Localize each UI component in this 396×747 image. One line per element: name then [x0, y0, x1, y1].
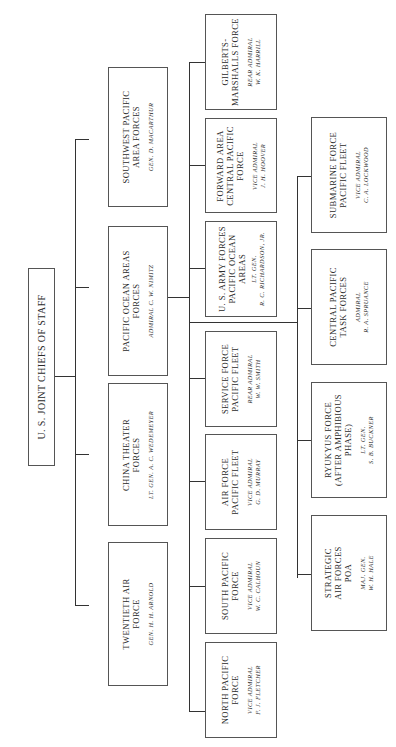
node-title-line: U. S. ARMY FORCES — [217, 226, 227, 312]
node-title-line: SOUTHWEST PACIFIC — [121, 91, 131, 184]
node-commander: W. K. HARRILL — [254, 18, 262, 106]
node-title-line: TWENTIETH AIR — [121, 578, 131, 649]
node-central-pacific-task-forces: CENTRAL PACIFIC TASK FORCES ADMIRAL R. A… — [311, 249, 387, 365]
node-title-line: PHASE) — [344, 394, 354, 486]
node-service-force-pacific-fleet: SERVICE FORCE PACIFIC FLEET REAR ADMIRAL… — [205, 331, 277, 427]
node-title-line: FORCE — [131, 578, 141, 649]
node-commander: ADMIRAL C. W. NIMITZ — [147, 250, 155, 351]
node-commander: LT. GEN. — [360, 394, 368, 486]
node-title-line: PACIFIC OCEAN AREAS — [121, 250, 131, 351]
node-commander: REAR ADMIRAL — [247, 18, 255, 106]
node-commander: R. C. RICHARDSON, JR. — [258, 226, 266, 312]
node-title-line: PACIFIC FLEET — [338, 132, 348, 218]
connector — [189, 165, 205, 166]
node-commander: REAR ADMIRAL — [247, 344, 255, 414]
node-title-line: FORCES — [131, 410, 141, 498]
connector — [75, 287, 89, 288]
node-title-line: CENTRAL PACIFIC — [328, 267, 338, 347]
node-commander: J. H. HOOVER — [259, 126, 267, 206]
node-commander: MAJ. GEN. — [360, 546, 368, 599]
node-title-line: MARSHALLS FORCE — [230, 18, 240, 106]
node-title-line: CHINA THEATER — [121, 410, 131, 498]
node-commander: VICE ADMIRAL — [247, 552, 255, 620]
node-commander: ADMIRAL — [355, 267, 363, 347]
connector — [189, 62, 205, 63]
node-forward-area-central-pacific: FORWARD AREA CENTRAL PACIFIC FORCE VICE … — [205, 118, 277, 213]
connector-bus-tier2 — [189, 62, 190, 711]
node-title-line: PACIFIC FLEET — [230, 344, 240, 414]
node-title-line: FORCE — [230, 656, 240, 725]
node-army-forces-poa: U. S. ARMY FORCES PACIFIC OCEAN AREAS LT… — [205, 221, 277, 317]
node-commander: VICE ADMIRAL — [252, 126, 260, 206]
node-title-line: STRATEGIC — [323, 546, 333, 599]
node-title-line: FORCE — [230, 552, 240, 620]
connector — [189, 481, 205, 482]
node-title-line: POA — [344, 546, 354, 599]
node-commander: LT. GEN. — [250, 226, 258, 312]
node-title-line: PACIFIC OCEAN — [227, 226, 237, 312]
connector — [75, 605, 89, 606]
node-title-line: PACIFIC FLEET — [230, 449, 240, 514]
node-commander: VICE ADMIRAL — [247, 449, 255, 514]
node-pacific-ocean-areas: PACIFIC OCEAN AREAS FORCES ADMIRAL C. W.… — [108, 226, 168, 376]
connector-bus-tier3 — [297, 176, 298, 578]
node-commander: W. W. SMITH — [254, 344, 262, 414]
connector — [189, 268, 205, 269]
node-north-pacific-force: NORTH PACIFIC FORCE VICE ADMIRAL F. J. F… — [205, 642, 277, 738]
node-commander: GEN. H. H. ARNOLD — [147, 578, 155, 649]
connector — [297, 574, 311, 575]
node-title-line: NORTH PACIFIC — [220, 656, 230, 725]
node-commander: C. A. LOCKWOOD — [362, 132, 370, 218]
node-title-line: FORWARD AREA — [215, 126, 225, 206]
node-title-line: AIR FORCES — [333, 546, 343, 599]
node-commander: VICE ADMIRAL — [355, 132, 363, 218]
node-china-theater: CHINA THEATER FORCES LT. GEN. A. C. WEDE… — [108, 383, 168, 526]
connector — [189, 586, 205, 587]
connector — [297, 440, 311, 441]
node-commander: F. J. FLETCHER — [254, 656, 262, 725]
node-title-line: (AFTER AMPHIBIOUS — [333, 394, 343, 486]
node-south-pacific-force: SOUTH PACIFIC FORCE VICE ADMIRAL W. C. C… — [205, 538, 277, 634]
node-title-line: SERVICE FORCE — [220, 344, 230, 414]
node-title: U. S. JOINT CHIEFS OF STAFF — [36, 294, 48, 439]
connector — [297, 176, 311, 177]
connector — [189, 322, 297, 323]
node-commander: R. A. SPRUANCE — [362, 267, 370, 347]
node-southwest-pacific: SOUTHWEST PACIFIC AREA FORCES GEN. D. MA… — [108, 67, 168, 207]
node-commander: LT. GEN. A. C. WEDEMEYER — [147, 410, 155, 498]
node-title-line: TASK FORCES — [338, 267, 348, 347]
node-submarine-force: SUBMARINE FORCE PACIFIC FLEET VICE ADMIR… — [311, 117, 387, 233]
node-commander: VICE ADMIRAL — [247, 656, 255, 725]
connector — [75, 454, 89, 455]
connector — [189, 711, 205, 712]
node-commander: W. C. CALHOUN — [254, 552, 262, 620]
node-title-line: FORCE — [236, 126, 246, 206]
node-title-line: FORCES — [131, 250, 141, 351]
node-commander: GEN. D. MACARTHUR — [147, 91, 155, 184]
node-title-line: AREAS — [237, 226, 247, 312]
connector — [55, 376, 75, 377]
node-commander: G. D. MURRAY — [254, 449, 262, 514]
node-title-line: SOUTH PACIFIC — [220, 552, 230, 620]
connector — [168, 297, 189, 298]
node-strategic-air-forces-poa: STRATEGIC AIR FORCES POA MAJ. GEN. W. H.… — [311, 515, 387, 631]
node-air-force-pacific-fleet: AIR FORCE PACIFIC FLEET VICE ADMIRAL G. … — [205, 434, 277, 530]
node-title-line: GILBERTS- — [220, 18, 230, 106]
node-commander: S. B. BUCKNER — [367, 394, 375, 486]
node-twentieth-air-force: TWENTIETH AIR FORCE GEN. H. H. ARNOLD — [108, 542, 168, 686]
node-title-line: RYUKYUS FORCE — [323, 394, 333, 486]
connector — [297, 308, 311, 309]
node-commander: W. H. HALE — [367, 546, 375, 599]
node-title-line: AREA FORCES — [131, 91, 141, 184]
node-title-line: AIR FORCE — [220, 449, 230, 514]
connector-bus-tier1 — [75, 139, 76, 606]
node-gilberts-marshalls: GILBERTS- MARSHALLS FORCE REAR ADMIRAL W… — [205, 14, 277, 110]
connector — [189, 378, 205, 379]
node-title-line: CENTRAL PACIFIC — [225, 126, 235, 206]
node-ryukyus-force: RYUKYUS FORCE (AFTER AMPHIBIOUS PHASE) L… — [311, 382, 387, 498]
node-joint-chiefs: U. S. JOINT CHIEFS OF STAFF — [28, 268, 55, 466]
connector — [75, 139, 89, 140]
node-title-line: SUBMARINE FORCE — [328, 132, 338, 218]
